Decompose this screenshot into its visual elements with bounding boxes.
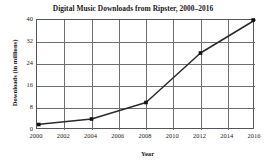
data-point-marker: [199, 51, 203, 55]
x-tick-label: 2008: [131, 133, 159, 139]
y-tick-label: 16: [3, 82, 33, 88]
data-point-marker: [251, 18, 255, 22]
x-tick-label: 2000: [22, 133, 50, 139]
data-point-marker: [37, 123, 41, 127]
x-axis-tick-labels: 200020022004200620082010201220142016: [36, 133, 254, 143]
series-line: [37, 20, 255, 125]
x-tick-label: 2002: [49, 133, 77, 139]
chart-title: Digital Music Downloads from Ripster, 20…: [0, 4, 266, 13]
y-axis-tick-labels: 0816243240: [0, 19, 33, 129]
data-series: [37, 20, 255, 130]
data-point-marker: [144, 101, 148, 105]
plot-area: [36, 19, 254, 129]
y-tick-label: 32: [3, 38, 33, 44]
y-tick-label: 8: [3, 104, 33, 110]
line-chart: Digital Music Downloads from Ripster, 20…: [0, 0, 266, 167]
y-tick-label: 24: [3, 60, 33, 66]
x-axis-title: Year: [35, 150, 260, 157]
x-tick-label: 2012: [186, 133, 214, 139]
x-tick-label: 2004: [77, 133, 105, 139]
y-tick-label: 40: [3, 16, 33, 22]
y-tick-label: 0: [3, 126, 33, 132]
x-tick-label: 2014: [213, 133, 241, 139]
x-tick-label: 2006: [104, 133, 132, 139]
x-tick-label: 2016: [240, 133, 266, 139]
data-point-marker: [90, 117, 94, 121]
x-tick-label: 2010: [158, 133, 186, 139]
